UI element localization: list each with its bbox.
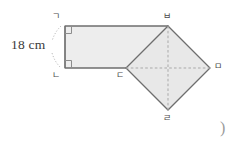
corner-paren-mark: ) xyxy=(220,120,225,136)
measurement-brace-upper xyxy=(52,26,61,41)
geometry-figure-page: ㄱ ㄴ ㄷ ㄹ ㅁ ㅂ 18 cm ) xyxy=(0,0,237,142)
vertex-label-digeut: ㄷ xyxy=(116,71,124,80)
vertex-label-rieul: ㄹ xyxy=(163,114,171,123)
vertex-label-bieup: ㅂ xyxy=(163,12,171,21)
vertex-label-giyeok: ㄱ xyxy=(52,12,60,21)
measurement-label-18cm: 18 cm xyxy=(11,38,45,52)
measurement-brace-lower xyxy=(52,53,61,68)
vertex-label-mieum: ㅁ xyxy=(214,62,222,71)
vertex-label-nieun: ㄴ xyxy=(52,71,60,80)
